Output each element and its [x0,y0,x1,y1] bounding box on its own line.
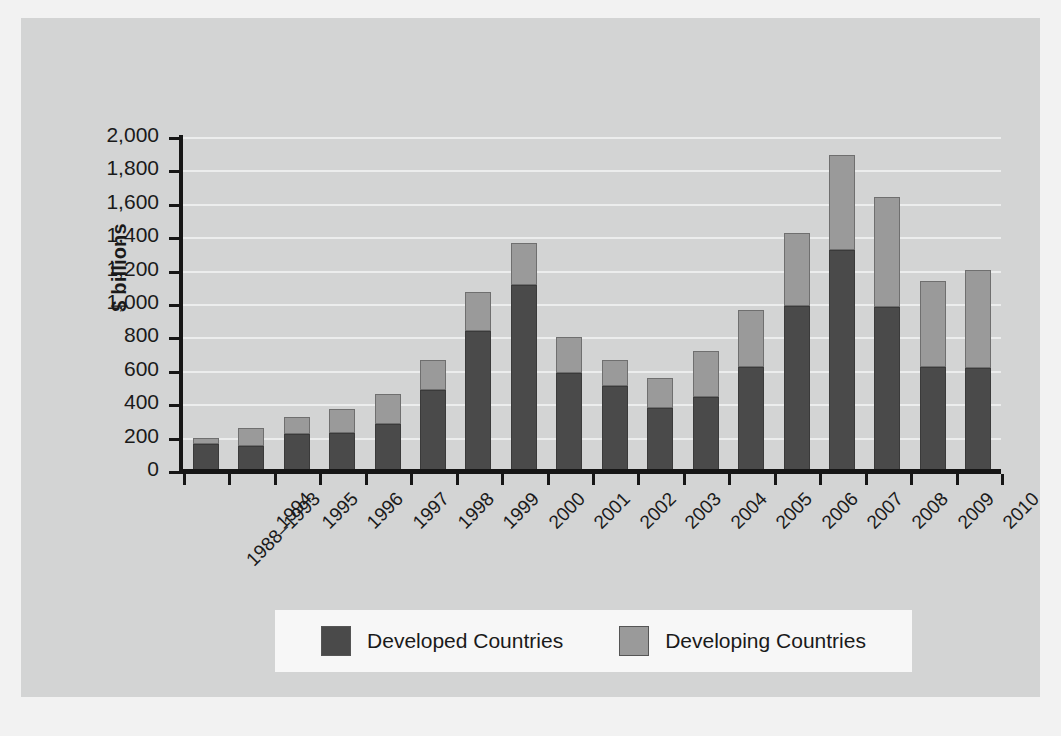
bar [238,428,264,471]
y-axis-tick [169,204,181,207]
x-axis-tick-label: 2004 [726,488,771,533]
x-axis-tick [456,474,459,485]
y-axis-tick-label: 2,000 [79,123,159,147]
x-axis-tick-label: 2005 [771,488,816,533]
bar-segment-developed [874,307,900,471]
legend-swatch-icon [619,626,649,656]
y-axis-tick-labels: 2,0001,8001,6001,4001,2001,0008006004002… [71,18,159,697]
legend-label: Developing Countries [665,629,866,653]
bar [602,360,628,471]
bar-segment-developed [784,306,810,471]
y-axis-tick [169,371,181,374]
x-axis-tick [956,474,959,485]
x-axis-tick [547,474,550,485]
y-axis-tick [169,404,181,407]
bar-segment-developing [238,428,264,446]
x-axis-tick-label: 1999 [499,488,544,533]
bar [784,233,810,471]
x-axis-tick [501,474,504,485]
x-axis-tick [183,474,186,485]
bar-segment-developed [738,367,764,471]
x-axis-tick [365,474,368,485]
bar-segment-developing [829,155,855,249]
y-axis-tick-label: 1,600 [79,190,159,214]
y-axis-tick [169,438,181,441]
bar [874,197,900,471]
x-axis-tick [637,474,640,485]
chart-figure: $ billions 2,0001,8001,6001,4001,2001,00… [21,18,1040,697]
bar-segment-developing [874,197,900,306]
bar-segment-developing [693,351,719,397]
bar-segment-developing [784,233,810,306]
y-axis-tick-label: 200 [79,424,159,448]
bar-segment-developed [238,446,264,471]
y-axis-tick-label: 0 [79,457,159,481]
x-axis-tick [865,474,868,485]
x-axis-tick [819,474,822,485]
bar [193,438,219,471]
x-axis-tick-label: 2003 [681,488,726,533]
y-axis-tick-label: 400 [79,390,159,414]
bar-segment-developing [920,281,946,367]
bar-segment-developed [602,386,628,471]
gridline [183,137,1001,139]
x-axis-tick [592,474,595,485]
y-axis-tick [169,271,181,274]
y-axis-tick-label: 800 [79,323,159,347]
bar [693,351,719,471]
x-axis-tick-label: 1997 [408,488,453,533]
y-axis-tick-label: 1,800 [79,156,159,180]
x-axis-tick [728,474,731,485]
y-axis-tick [169,237,181,240]
x-axis-tick-label: 1996 [362,488,407,533]
bar [465,292,491,471]
y-axis-tick-label: 1,000 [79,290,159,314]
plot-area [183,137,1001,471]
x-axis-spine [179,469,1001,474]
x-axis-tick-label: 1995 [317,488,362,533]
legend-label: Developed Countries [367,629,563,653]
x-axis-tick [319,474,322,485]
gridline [183,170,1001,172]
bar-segment-developed [375,424,401,471]
x-axis-tick [774,474,777,485]
bar-segment-developed [465,331,491,471]
bar [738,310,764,471]
bar-segment-developed [556,373,582,471]
bar [511,243,537,471]
bar [965,270,991,471]
x-axis-tick-label: 2009 [953,488,998,533]
bar [329,409,355,471]
bar-segment-developed [329,433,355,471]
y-axis-tick [169,137,181,140]
legend-swatch-icon [321,626,351,656]
x-axis-tick-label: 1998 [453,488,498,533]
legend-item[interactable]: Developing Countries [619,626,866,656]
bar-segment-developing [284,417,310,435]
bar [284,417,310,471]
bar-segment-developed [693,397,719,471]
chart-legend: Developed CountriesDeveloping Countries [275,610,912,672]
bar-segment-developed [647,408,673,471]
bar-segment-developed [284,434,310,471]
bar-segment-developing [647,378,673,407]
bar-segment-developing [965,270,991,369]
x-axis-tick-label: 2006 [817,488,862,533]
x-axis-tick [410,474,413,485]
bar-segment-developing [465,292,491,330]
x-axis-tick-label: 2007 [862,488,907,533]
bar-segment-developing [329,409,355,432]
x-axis-tick-label: 2002 [635,488,680,533]
bar-segment-developing [738,310,764,367]
bar [920,281,946,471]
x-axis-tick [274,474,277,485]
x-axis-tick [910,474,913,485]
y-axis-tick [169,170,181,173]
y-axis-tick [169,337,181,340]
bar-segment-developed [511,285,537,471]
legend-item[interactable]: Developed Countries [321,626,563,656]
x-axis-tick-label: 2008 [908,488,953,533]
bar-segment-developing [420,360,446,390]
y-axis-tick-label: 1,400 [79,223,159,247]
x-axis-tick [228,474,231,485]
